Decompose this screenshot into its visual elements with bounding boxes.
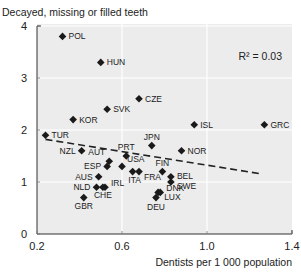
point-label: FIN	[156, 158, 170, 168]
y-tick-labels: 01234	[21, 20, 27, 240]
point-label: JPN	[144, 132, 160, 142]
point-label: GRC	[270, 120, 289, 130]
y-tick-label: 4	[21, 20, 27, 32]
y-tick-label: 0	[21, 228, 27, 240]
r-squared-annotation: R² = 0.03	[239, 50, 283, 62]
point-label: DEU	[147, 202, 165, 212]
x-tick-label: 0.2	[29, 240, 44, 252]
data-point-aus: AUS	[75, 172, 102, 182]
x-tick-labels: 0.20.61.01.4	[29, 240, 299, 252]
point-label: NZL	[60, 146, 76, 156]
point-label: BEL	[177, 171, 193, 181]
data-point-nzl: NZL	[60, 146, 86, 156]
x-tick-label: 0.6	[114, 240, 129, 252]
point-label: POL	[69, 31, 86, 41]
point-label: TUR	[52, 130, 69, 140]
data-point-svk: SVK	[103, 104, 130, 114]
point-label: CZE	[145, 94, 162, 104]
point-label: ISL	[200, 120, 213, 130]
point-label: GBR	[75, 201, 93, 211]
chart-canvas: 01234 0.20.61.01.4 POLHUNCZESVKKORISLGRC…	[0, 0, 301, 272]
y-axis-label: Decayed, missing or filled teeth	[2, 6, 148, 18]
data-point-cze: CZE	[135, 94, 162, 104]
point-label: NLD	[73, 182, 90, 192]
point-label: CHE	[94, 190, 112, 200]
scatter-chart: 01234 0.20.61.01.4 POLHUNCZESVKKORISLGRC…	[0, 0, 301, 272]
point-label: AUS	[75, 172, 93, 182]
point-label: LUX	[164, 192, 181, 202]
point-label: USA	[127, 154, 145, 164]
data-point-pol: POL	[59, 31, 86, 41]
point-label: AUT	[88, 147, 105, 157]
point-label: PRT	[118, 142, 135, 152]
point-label: ITA	[128, 175, 141, 185]
point-label: KOR	[79, 115, 97, 125]
data-point-esp: ESP	[84, 161, 111, 171]
y-tick-label: 2	[21, 124, 27, 136]
data-point-tur: TUR	[42, 130, 69, 140]
x-axis-label: Dentists per 1 000 population	[155, 256, 292, 268]
point-label: HUN	[107, 57, 125, 67]
x-tick-label: 1.0	[199, 240, 214, 252]
point-label: SVK	[113, 104, 130, 114]
point-label: NOR	[188, 146, 207, 156]
y-tick-label: 3	[21, 72, 27, 84]
x-tick-label: 1.4	[284, 240, 299, 252]
y-tick-label: 1	[21, 176, 27, 188]
point-label: ESP	[84, 161, 101, 171]
point-label: IRL	[111, 178, 125, 188]
point-label: FRA	[144, 172, 161, 182]
